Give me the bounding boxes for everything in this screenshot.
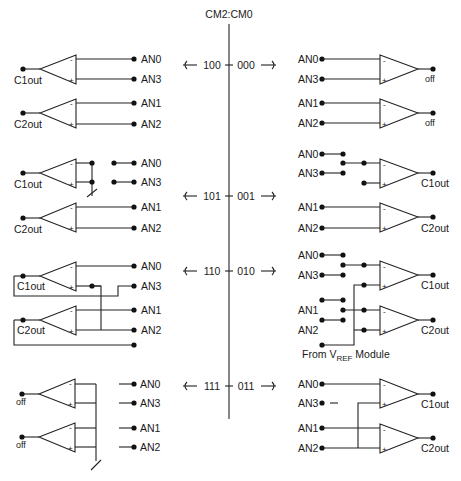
plus-sign: +	[68, 444, 73, 453]
c2out-label: C2out	[14, 223, 42, 235]
an3-label: AN3	[298, 167, 319, 179]
minus-sign: -	[70, 306, 73, 315]
output-node	[20, 66, 25, 71]
mode-code-010: 010	[237, 265, 255, 277]
switch-node	[340, 252, 345, 257]
switch-node	[340, 297, 345, 302]
c1out-label: C1out	[14, 178, 42, 190]
plus-sign: +	[69, 224, 74, 233]
input-node	[131, 327, 136, 332]
c1out-label: C1out	[421, 279, 449, 291]
minus-sign: -	[383, 262, 386, 271]
an2-label: AN2	[141, 118, 162, 130]
an2-label: AN2	[298, 222, 319, 234]
off-label: off	[425, 118, 435, 128]
off-label: off	[16, 440, 26, 450]
an0-label: AN0	[141, 260, 162, 272]
minus-sign: -	[69, 423, 72, 432]
output-node	[20, 110, 25, 115]
mode-code-001: 001	[237, 190, 255, 202]
plus-sign: +	[382, 120, 387, 129]
mode-110-circuit: - + C1out AN0 AN3 - + C2out AN1 AN2	[14, 260, 162, 348]
ground-icon	[91, 460, 101, 470]
input-node	[131, 283, 136, 288]
plus-sign: +	[382, 327, 387, 336]
input-node	[131, 204, 136, 209]
plus-sign: +	[68, 400, 73, 409]
switch-node	[340, 272, 345, 277]
mode-100-circuit: - + C1out AN0 AN3 - + C2out AN1 AN2	[14, 53, 162, 130]
an2-label: AN2	[141, 324, 162, 336]
minus-sign: -	[383, 160, 386, 169]
junction-node	[89, 160, 94, 165]
minus-sign: -	[383, 56, 386, 65]
minus-sign: -	[70, 55, 73, 64]
an3-label: AN3	[141, 73, 162, 85]
input-node	[131, 425, 136, 430]
shared-plus-wire	[92, 286, 101, 330]
an2-label: AN2	[141, 222, 162, 234]
an2-label: AN2	[298, 442, 319, 454]
plus-sign: +	[69, 327, 74, 336]
plus-sign: +	[382, 180, 387, 189]
an2-label: AN2	[298, 324, 319, 336]
minus-sign: -	[70, 99, 73, 108]
an3-label: AN3	[298, 397, 319, 409]
an0-label: AN0	[298, 249, 319, 261]
mode-111-circuit: - + off - + off AN0 AN3 AN1 AN2	[16, 378, 161, 470]
an3-label: AN3	[298, 269, 319, 281]
switch-node	[340, 170, 345, 175]
junction-node	[89, 179, 94, 184]
input-node	[131, 381, 136, 386]
minus-sign: -	[383, 307, 386, 316]
mode-010-circuit: AN0 AN3 - + C1out AN1 AN2 -	[298, 249, 449, 363]
an3-label: AN3	[141, 280, 162, 292]
an1-label: AN1	[141, 304, 162, 316]
c2out-label: C2out	[421, 222, 449, 234]
output-pin-node	[131, 342, 136, 347]
plus-sign: +	[382, 224, 387, 233]
output-node	[430, 170, 435, 175]
input-node	[131, 225, 136, 230]
an0-label: AN0	[298, 53, 319, 65]
vref-node	[319, 342, 324, 347]
junction-node	[361, 307, 366, 312]
an1-label: AN1	[298, 422, 319, 434]
input-node	[131, 160, 136, 165]
mode-code-110: 110	[204, 265, 221, 277]
input-node	[319, 400, 324, 405]
an3-label: AN3	[298, 73, 319, 85]
mode-011-circuit: AN0 AN3 - + C1out AN1 AN2 - + C2out	[298, 378, 449, 454]
mode-101-circuit: - + C1out AN0 AN3 - + C2out AN1 AN2	[14, 157, 162, 235]
vref-module-label: From VREF Module	[302, 348, 390, 363]
mode-code-101: 101	[203, 190, 221, 202]
c1out-label: C1out	[17, 280, 45, 292]
input-node	[131, 444, 136, 449]
mode-code-111: 111	[204, 380, 220, 392]
junction-node	[361, 160, 366, 165]
an1-label: AN1	[141, 201, 162, 213]
junction-node	[361, 282, 366, 287]
c1out-label: C1out	[14, 74, 42, 86]
plus-sign: +	[69, 120, 74, 129]
junction-node	[361, 262, 366, 267]
axis-title: CM2:CM0	[205, 8, 252, 20]
an3-label: AN3	[141, 176, 162, 188]
output-node	[19, 434, 24, 439]
input-node	[131, 56, 136, 61]
output-node	[430, 435, 435, 440]
c2out-label: C2out	[17, 324, 45, 336]
input-node	[131, 121, 136, 126]
an2-label: AN2	[140, 441, 161, 453]
c2out-label: C2out	[421, 442, 449, 454]
input-node	[131, 307, 136, 312]
vref-bus-wire	[322, 285, 380, 345]
minus-sign: -	[383, 100, 386, 109]
input-node	[131, 400, 136, 405]
an1-label: AN1	[298, 201, 319, 213]
shared-plus-wire	[358, 403, 380, 448]
minus-sign: -	[383, 204, 386, 213]
plus-sign: +	[382, 445, 387, 454]
plus-sign: +	[382, 400, 387, 409]
input-node	[131, 100, 136, 105]
